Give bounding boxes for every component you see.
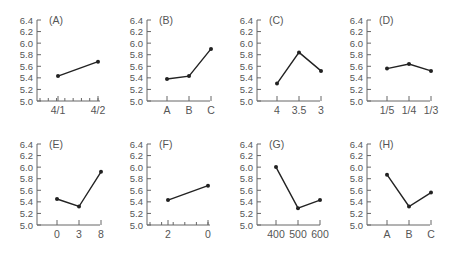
panel-title: (C) (269, 14, 284, 26)
y-tick-label: 6.0 (20, 162, 33, 173)
y-tick-label: 5.2 (130, 84, 143, 95)
y-tick-label: 5.2 (350, 84, 363, 95)
panel-title: (D) (379, 14, 394, 26)
chart-panel-d: 5.05.25.45.65.86.06.26.4(D)1/51/41/3 (350, 14, 439, 116)
y-tick-label: 5.4 (240, 72, 253, 83)
y-tick-label: 5.8 (240, 49, 253, 60)
y-tick-label: 5.0 (350, 220, 363, 231)
data-line (276, 167, 320, 208)
y-tick-label: 5.0 (130, 220, 143, 231)
panel-title: (B) (159, 14, 173, 26)
y-tick-label: 5.2 (350, 208, 363, 219)
x-tick-label: 8 (98, 228, 104, 240)
data-point (296, 206, 300, 210)
x-tick-label: 0 (54, 228, 60, 240)
x-tick-label: 3 (76, 228, 82, 240)
data-point (275, 82, 279, 86)
data-point (297, 50, 301, 54)
chart-panel-c: 5.05.25.45.65.86.06.26.4(C)43.53 (240, 14, 324, 116)
data-point (274, 165, 278, 169)
x-tick-label: 600 (311, 228, 329, 240)
data-line (168, 186, 208, 200)
y-tick-label: 6.4 (130, 139, 143, 150)
y-tick-label: 6.2 (350, 26, 363, 37)
y-tick-label: 5.0 (350, 96, 363, 107)
x-tick-label: 1/4 (402, 104, 417, 116)
data-point (429, 69, 433, 73)
y-tick-label: 6.4 (20, 139, 33, 150)
data-point (77, 205, 81, 209)
x-tick-label: 4/2 (91, 104, 106, 116)
x-tick-label: A (383, 228, 390, 240)
chart-panel-h: 5.05.25.45.65.86.06.26.4(H)ABC (350, 138, 435, 240)
y-tick-label: 6.0 (130, 162, 143, 173)
panel-title: (E) (49, 138, 63, 150)
y-tick-label: 6.2 (20, 150, 33, 161)
data-point (99, 170, 103, 174)
chart-panel-g: 5.05.25.45.65.86.06.26.4(G)400500600 (240, 138, 329, 240)
y-tick-label: 5.0 (240, 220, 253, 231)
x-tick-label: C (427, 228, 435, 240)
data-point (209, 47, 213, 51)
y-tick-label: 5.6 (130, 185, 143, 196)
y-tick-label: 6.4 (350, 15, 363, 26)
data-point (407, 205, 411, 209)
y-tick-label: 6.2 (130, 150, 143, 161)
data-line (277, 52, 321, 83)
data-point (165, 77, 169, 81)
panel-title: (H) (379, 138, 394, 150)
y-tick-label: 6.0 (240, 162, 253, 173)
y-tick-label: 5.8 (20, 49, 33, 60)
x-tick-label: 2 (165, 228, 171, 240)
y-tick-label: 5.4 (240, 196, 253, 207)
y-tick-label: 5.8 (350, 173, 363, 184)
data-point (96, 60, 100, 64)
data-point (319, 69, 323, 73)
y-tick-label: 5.0 (20, 96, 33, 107)
x-tick-label: 400 (267, 228, 285, 240)
y-tick-label: 5.4 (350, 72, 363, 83)
x-tick-label: C (207, 104, 215, 116)
data-point (318, 198, 322, 202)
y-tick-label: 5.0 (240, 96, 253, 107)
y-tick-label: 6.2 (240, 150, 253, 161)
y-tick-label: 5.2 (240, 84, 253, 95)
x-tick-label: 3 (318, 104, 324, 116)
y-tick-label: 5.2 (130, 208, 143, 219)
y-tick-label: 6.0 (130, 38, 143, 49)
y-tick-label: 5.4 (350, 196, 363, 207)
y-tick-label: 5.6 (240, 185, 253, 196)
y-tick-label: 5.8 (20, 173, 33, 184)
y-tick-label: 5.4 (130, 72, 143, 83)
y-tick-label: 6.0 (350, 38, 363, 49)
y-tick-label: 5.8 (240, 173, 253, 184)
y-tick-label: 5.6 (350, 185, 363, 196)
x-tick-label: B (185, 104, 192, 116)
x-tick-label: 4 (274, 104, 280, 116)
line-charts-svg: 5.05.25.45.65.86.06.26.4(A)4/14/25.05.25… (0, 0, 454, 253)
y-tick-label: 5.0 (130, 96, 143, 107)
y-tick-label: 6.2 (20, 26, 33, 37)
data-point (385, 173, 389, 177)
x-tick-label: 500 (289, 228, 307, 240)
x-tick-label: 0 (205, 228, 211, 240)
panel-title: (F) (159, 138, 172, 150)
y-tick-label: 5.6 (20, 61, 33, 72)
y-tick-label: 5.2 (20, 84, 33, 95)
panel-title: (G) (269, 138, 284, 150)
y-tick-label: 5.4 (20, 72, 33, 83)
chart-panel-f: 5.05.25.45.65.86.06.26.4(F)20 (130, 138, 211, 240)
data-line (387, 175, 431, 207)
y-tick-label: 5.2 (240, 208, 253, 219)
data-point (166, 198, 170, 202)
data-line (57, 172, 101, 207)
y-tick-label: 6.4 (130, 15, 143, 26)
y-tick-label: 5.8 (130, 49, 143, 60)
y-tick-label: 6.0 (240, 38, 253, 49)
x-tick-label: 4/1 (51, 104, 66, 116)
y-tick-label: 6.4 (240, 15, 253, 26)
y-tick-label: 6.2 (240, 26, 253, 37)
data-point (55, 197, 59, 201)
data-point (206, 184, 210, 188)
y-tick-label: 5.6 (350, 61, 363, 72)
